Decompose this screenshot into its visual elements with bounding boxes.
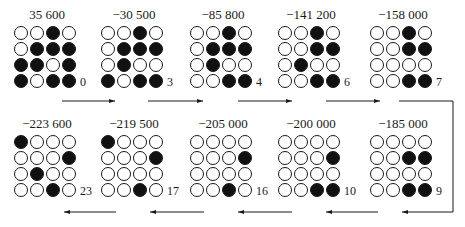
empty-circle-icon <box>294 167 308 181</box>
empty-circle-icon <box>30 26 44 40</box>
filled-circle-icon <box>326 42 340 56</box>
empty-circle-icon <box>278 183 292 197</box>
filled-circle-icon <box>222 42 236 56</box>
empty-circle-icon <box>402 58 416 72</box>
empty-circle-icon <box>206 26 220 40</box>
energy-value-label: −85 800 <box>184 8 262 22</box>
empty-circle-icon <box>222 167 236 181</box>
filled-circle-icon <box>418 151 432 165</box>
empty-circle-icon <box>370 74 384 88</box>
empty-circle-icon <box>14 167 28 181</box>
empty-circle-icon <box>238 167 252 181</box>
arrowhead-icon <box>238 210 244 214</box>
empty-circle-icon <box>149 58 163 72</box>
empty-circle-icon <box>117 26 131 40</box>
empty-circle-icon <box>418 26 432 40</box>
filled-circle-icon <box>402 26 416 40</box>
filled-circle-icon <box>14 74 28 88</box>
filled-circle-icon <box>117 58 131 72</box>
step-number-label: 0 <box>80 76 86 88</box>
binary-grid-4x4 <box>190 135 254 199</box>
filled-circle-icon <box>238 42 252 56</box>
binary-grid-4x4 <box>14 135 78 199</box>
empty-circle-icon <box>30 135 44 149</box>
filled-circle-icon <box>326 183 340 197</box>
empty-circle-icon <box>62 26 76 40</box>
empty-circle-icon <box>386 151 400 165</box>
empty-circle-icon <box>370 42 384 56</box>
empty-circle-icon <box>386 167 400 181</box>
empty-circle-icon <box>206 167 220 181</box>
binary-grid-4x4 <box>370 26 434 90</box>
step-number-label: 23 <box>80 185 92 197</box>
empty-circle-icon <box>101 42 115 56</box>
filled-circle-icon <box>222 26 236 40</box>
empty-circle-icon <box>370 167 384 181</box>
filled-circle-icon <box>30 42 44 56</box>
empty-circle-icon <box>101 167 115 181</box>
filled-circle-icon <box>402 151 416 165</box>
empty-circle-icon <box>222 151 236 165</box>
filled-circle-icon <box>206 58 220 72</box>
filled-circle-icon <box>402 42 416 56</box>
empty-circle-icon <box>402 167 416 181</box>
empty-circle-icon <box>190 42 204 56</box>
filled-circle-icon <box>149 42 163 56</box>
grid-sequence-diagram: 35 6000−30 5003−85 8004−141 2006−158 000… <box>0 0 465 227</box>
empty-circle-icon <box>278 42 292 56</box>
empty-circle-icon <box>278 135 292 149</box>
filled-circle-icon <box>133 42 147 56</box>
filled-circle-icon <box>117 42 131 56</box>
arrowhead-icon <box>402 210 408 214</box>
empty-circle-icon <box>30 151 44 165</box>
step-number-label: 9 <box>436 185 442 197</box>
empty-circle-icon <box>117 183 131 197</box>
filled-circle-icon <box>418 42 432 56</box>
empty-circle-icon <box>278 167 292 181</box>
binary-grid-4x4 <box>14 26 78 90</box>
empty-circle-icon <box>101 151 115 165</box>
empty-circle-icon <box>370 26 384 40</box>
empty-circle-icon <box>278 26 292 40</box>
empty-circle-icon <box>326 26 340 40</box>
filled-circle-icon <box>294 58 308 72</box>
energy-value-label: −185 000 <box>364 117 442 131</box>
filled-circle-icon <box>238 151 252 165</box>
filled-circle-icon <box>133 183 147 197</box>
filled-circle-icon <box>14 58 28 72</box>
empty-circle-icon <box>30 74 44 88</box>
arrowhead-icon <box>150 210 156 214</box>
step-number-label: 3 <box>167 76 173 88</box>
empty-circle-icon <box>294 26 308 40</box>
filled-circle-icon <box>402 74 416 88</box>
empty-circle-icon <box>14 183 28 197</box>
filled-circle-icon <box>206 42 220 56</box>
filled-circle-icon <box>418 183 432 197</box>
empty-circle-icon <box>418 167 432 181</box>
empty-circle-icon <box>294 42 308 56</box>
energy-value-label: 35 600 <box>8 8 86 22</box>
empty-circle-icon <box>370 183 384 197</box>
empty-circle-icon <box>386 26 400 40</box>
filled-circle-icon <box>149 151 163 165</box>
empty-circle-icon <box>386 135 400 149</box>
filled-circle-icon <box>46 183 60 197</box>
empty-circle-icon <box>238 58 252 72</box>
empty-circle-icon <box>418 135 432 149</box>
empty-circle-icon <box>294 74 308 88</box>
energy-value-label: −219 500 <box>95 117 173 131</box>
filled-circle-icon <box>46 26 60 40</box>
empty-circle-icon <box>101 58 115 72</box>
energy-value-label: −30 500 <box>95 8 173 22</box>
arrowhead-icon <box>109 99 115 103</box>
step-number-label: 10 <box>344 185 356 197</box>
filled-circle-icon <box>149 74 163 88</box>
arrowhead-icon <box>197 99 203 103</box>
empty-circle-icon <box>133 58 147 72</box>
step-number-label: 7 <box>436 76 442 88</box>
empty-circle-icon <box>117 135 131 149</box>
binary-grid-4x4 <box>101 26 165 90</box>
empty-circle-icon <box>238 183 252 197</box>
filled-circle-icon <box>101 74 115 88</box>
empty-circle-icon <box>62 167 76 181</box>
